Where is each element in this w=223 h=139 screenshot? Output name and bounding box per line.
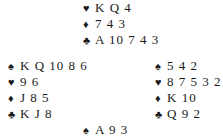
cards: 7 4 3 <box>95 16 126 31</box>
west-hand: ♠K Q 10 8 6 ♥9 6 ♦J 8 5 ♣K J 8 <box>8 58 88 122</box>
west-hearts: ♥9 6 <box>8 74 88 90</box>
north-hand: ♥K Q 4 ♦7 4 3 ♣A 10 7 4 3 <box>83 0 159 48</box>
diamond-icon: ♦ <box>8 90 20 106</box>
club-icon: ♣ <box>83 32 95 48</box>
east-hearts: ♥8 7 5 3 2 <box>155 74 222 90</box>
spade-icon: ♠ <box>8 58 20 74</box>
cards: 8 7 5 3 2 <box>167 74 222 89</box>
spade-icon: ♠ <box>83 122 95 138</box>
cards: K Q 4 <box>95 0 132 15</box>
cards: K 10 <box>167 90 197 105</box>
cards: 5 4 2 <box>167 58 198 73</box>
east-diamonds: ♦K 10 <box>155 90 222 106</box>
north-diamonds: ♦7 4 3 <box>83 16 159 32</box>
club-icon: ♣ <box>8 106 20 122</box>
cards: Q 9 2 <box>167 106 201 121</box>
east-spades: ♠5 4 2 <box>155 58 222 74</box>
south-hand: ♠A 9 3 <box>83 122 128 138</box>
heart-icon: ♥ <box>155 74 167 90</box>
north-hearts: ♥K Q 4 <box>83 0 159 16</box>
cards: K J 8 <box>20 106 52 121</box>
cards: A 10 7 4 3 <box>95 32 159 47</box>
north-clubs: ♣A 10 7 4 3 <box>83 32 159 48</box>
west-diamonds: ♦J 8 5 <box>8 90 88 106</box>
spade-icon: ♠ <box>155 58 167 74</box>
west-clubs: ♣K J 8 <box>8 106 88 122</box>
cards: 9 6 <box>20 74 39 89</box>
diamond-icon: ♦ <box>83 16 95 32</box>
club-icon: ♣ <box>155 106 167 122</box>
cards: K Q 10 8 6 <box>20 58 88 73</box>
south-spades: ♠A 9 3 <box>83 122 128 138</box>
west-spades: ♠K Q 10 8 6 <box>8 58 88 74</box>
cards: A 9 3 <box>95 122 128 137</box>
diamond-icon: ♦ <box>155 90 167 106</box>
heart-icon: ♥ <box>8 74 20 90</box>
heart-icon: ♥ <box>83 0 95 16</box>
east-clubs: ♣Q 9 2 <box>155 106 222 122</box>
east-hand: ♠5 4 2 ♥8 7 5 3 2 ♦K 10 ♣Q 9 2 <box>155 58 222 122</box>
cards: J 8 5 <box>20 90 50 105</box>
